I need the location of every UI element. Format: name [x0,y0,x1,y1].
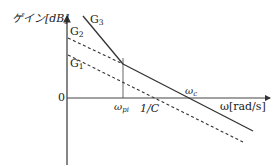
g3-label: G3 [90,14,104,27]
omega-c-sub: c [193,90,197,98]
one-over-c-label: 1/C [140,103,159,114]
y-axis-label: ゲイン[dB] [12,13,69,24]
g3-label-sub: 3 [99,18,104,27]
g3-label-main: G [90,13,99,26]
origin-label: 0 [58,92,65,103]
g2-label-main: G [70,25,79,38]
omega-pi-sub: pi [122,106,129,114]
g1-label: G1 [70,58,84,71]
g1-label-main: G [70,57,79,70]
g1-label-sub: 1 [79,62,84,71]
omega-pi-label: ωpi [114,102,129,114]
g2-label: G2 [70,26,84,39]
x-axis-label: ω[rad/s] [220,101,266,112]
g2-label-sub: 2 [79,30,84,39]
omega-pi-main: ω [114,101,122,112]
omega-c-main: ω [185,85,193,96]
omega-c-label: ωc [185,86,197,98]
